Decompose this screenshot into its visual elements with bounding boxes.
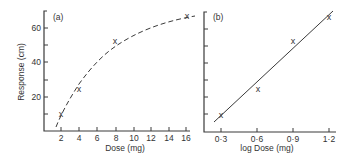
panel-b-data-point: x [291,36,296,46]
panel-a-xtick: 6 [95,133,100,143]
panel-a: 20 40 60 2 4 6 8 10 12 14 16 Dose (mg) R… [16,11,195,153]
panel-a-label: (a) [53,12,64,22]
panel-a-xtick: 16 [181,133,191,143]
panel-a-fitted-curve [56,16,195,127]
panel-a-xtick: 2 [59,133,64,143]
panel-b-xtick: 0·3 [215,134,228,144]
panel-a-data-point: x [59,109,64,119]
panel-a-axes [44,11,190,131]
panel-a-xlabel: Dose (mg) [105,143,145,153]
panel-b-data-point: x [327,12,332,22]
panel-b-data-point: x [256,84,261,94]
panel-a-xtick: 8 [114,133,119,143]
panel-a-data-point: x [185,11,190,21]
panel-a-ytick-40: 40 [32,57,42,67]
panel-b-data-point: x [219,110,224,120]
panel-b: 0·3 0·6 0·9 1·2 log Dose (mg) (b) x x x … [204,11,336,153]
panel-a-xtick: 12 [146,133,156,143]
panel-a-ytick-60: 60 [32,23,42,33]
figure: 20 40 60 2 4 6 8 10 12 14 16 Dose (mg) R… [0,0,354,158]
panel-a-ytick-20: 20 [32,92,42,102]
panel-a-xtick: 4 [77,133,82,143]
panel-b-label: (b) [213,12,224,22]
panel-b-axes [204,12,336,132]
panel-b-xlabel: log Dose (mg) [240,143,294,153]
panel-a-ylabel: Response (cm) [16,43,26,101]
panel-b-xtick: 1·2 [323,134,336,144]
panel-b-fitted-line [214,11,333,122]
panel-a-xtick: 10 [129,133,139,143]
panel-a-data-point: x [113,36,118,46]
panel-a-data-point: x [77,84,82,94]
panel-a-xtick: 14 [164,133,174,143]
